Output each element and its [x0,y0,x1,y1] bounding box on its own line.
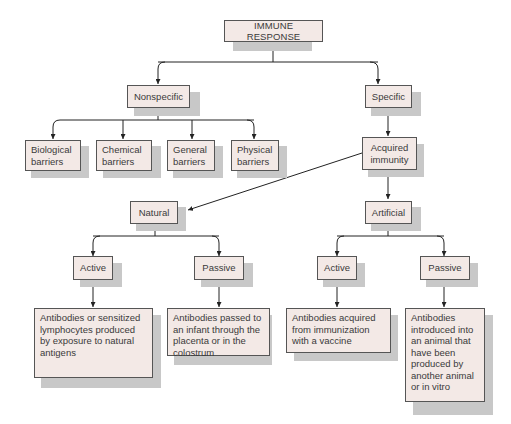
node-biological-barriers: Biological barriers [25,140,81,171]
node-natural-passive: Passive [194,256,244,280]
node-chemical-barriers: Chemical barriers [96,140,152,171]
node-specific: Specific [365,85,412,108]
node-natural: Natural [130,201,178,224]
node-general-barriers: General barriers [167,140,215,171]
node-artificial-active-description: Antibodies acquired from immunization wi… [286,308,391,353]
node-acquired-immunity: Acquired immunity [362,137,417,170]
node-natural-active: Active [73,256,113,280]
node-artificial-active: Active [317,256,357,280]
node-artificial-passive: Passive [420,256,470,280]
node-artificial: Artificial [365,201,412,224]
node-artificial-passive-description: Antibodies introduced into an animal tha… [405,308,485,402]
node-nonspecific: Nonspecific [127,85,190,108]
node-physical-barriers: Physical barriers [231,140,279,171]
node-natural-active-description: Antibodies or sensitized lymphocytes pro… [34,308,153,378]
node-natural-passive-description: Antibodies passed to an infant through t… [167,308,270,356]
node-immune-response: IMMUNE RESPONSE [224,20,323,42]
